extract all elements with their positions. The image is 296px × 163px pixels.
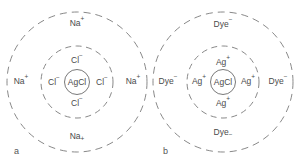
inner-ion-a-left: Cl− xyxy=(48,78,60,87)
inner-ion-a-bottom: Cl− xyxy=(71,99,83,108)
panel-label-b: b xyxy=(163,146,168,156)
inner-ion-a-top: Cl− xyxy=(71,56,83,65)
panel-label-a: a xyxy=(14,146,19,156)
outer-ion-b-bottom: Dye− xyxy=(214,128,233,137)
outer-ion-b-top: Dye− xyxy=(214,20,233,29)
outer-ion-a-bottom: Na+ xyxy=(70,132,85,141)
inner-ion-b-left: Ag+ xyxy=(192,77,206,86)
diagram-canvas: AgCl Cl− Cl− Cl− Cl− Na+ Na+ Na+ Na+ a A… xyxy=(0,0,296,163)
outer-ion-b-left: Dye− xyxy=(159,77,178,86)
outer-ion-a-top: Na+ xyxy=(70,19,85,28)
outer-ion-a-left: Na+ xyxy=(14,77,29,86)
inner-ion-b-right: Ag+ xyxy=(241,77,255,86)
core-label-a: AgCl xyxy=(68,78,86,87)
inner-ion-a-right: Cl− xyxy=(96,78,108,87)
inner-ion-b-top: Ag+ xyxy=(216,58,230,67)
inner-ion-b-bottom: Ag+ xyxy=(216,99,230,108)
outer-ion-b-right: Dye− xyxy=(269,77,288,86)
core-label-b: AgCl xyxy=(214,78,232,87)
outer-ion-a-right: Na+ xyxy=(126,77,141,86)
